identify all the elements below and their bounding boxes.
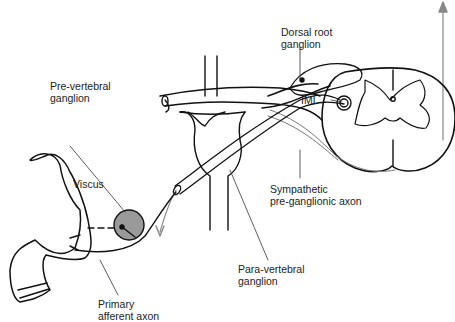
preganglionic-axon (156, 95, 344, 236)
diagram-drawing (0, 0, 455, 322)
label-pre-vertebral-ganglion: Pre-vertebralganglion (50, 80, 111, 104)
viscus (10, 154, 91, 302)
diagram-canvas: Dorsal rootganglion Pre-vertebralganglio… (0, 0, 455, 322)
ascending-arrow (439, 2, 447, 140)
label-dorsal-root-ganglion: Dorsal rootganglion (281, 26, 332, 50)
spinal-cord (322, 68, 455, 172)
label-iml: IML (301, 94, 319, 106)
label-sympathetic-axon: Sympatheticpre-ganglionic axon (270, 183, 362, 207)
label-primary-afferent-axon: Primaryafferent axon (98, 298, 159, 322)
pre-vertebral-ganglion (114, 210, 144, 240)
label-viscus: Viscus (73, 178, 104, 190)
label-para-vertebral-ganglion: Para-vertebralganglion (238, 263, 305, 287)
sympathetic-chain (180, 56, 245, 230)
